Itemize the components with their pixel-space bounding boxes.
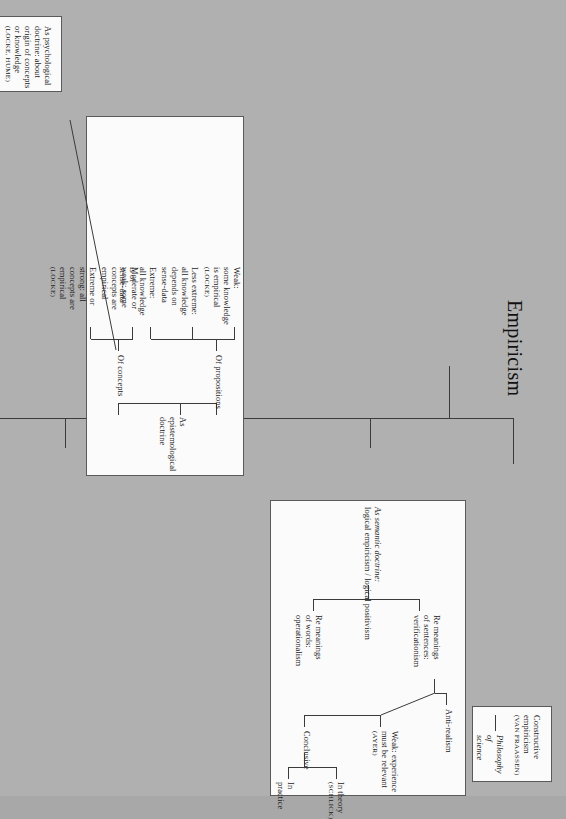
psych-line3: origin of concepts <box>22 26 32 88</box>
node-psychological-doctrine: As psychological doctrine: about origin … <box>4 26 52 88</box>
psych-attribution: (LOCKE, HUME) <box>4 26 12 88</box>
box-psychological-doctrine: As psychological doctrine: about origin … <box>0 16 62 92</box>
psych-line2: doctrine: about <box>32 26 42 88</box>
psych-line4: or knowledge <box>12 26 22 88</box>
psych-line1: As psychological <box>42 26 52 88</box>
